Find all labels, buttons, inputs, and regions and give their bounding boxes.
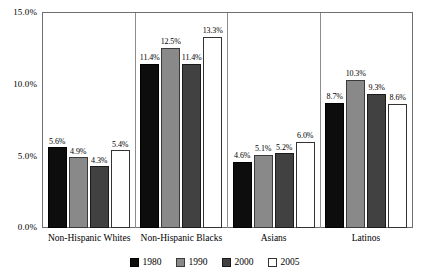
bar-value-label: 5.2% (276, 144, 292, 152)
bar-slot: 8.7% (325, 13, 344, 228)
bar-value-label: 8.6% (390, 94, 406, 102)
bar-2000[interactable] (182, 64, 201, 228)
bar-slot: 4.9% (69, 13, 88, 228)
bar-value-label: 5.1% (255, 145, 271, 153)
bar-2000[interactable] (90, 166, 109, 228)
bar-2005[interactable] (388, 104, 407, 228)
chart-legend: 1980 1990 2000 2005 (0, 255, 429, 269)
bar-2005[interactable] (111, 150, 130, 228)
bar-slot: 5.4% (111, 13, 130, 228)
category-label-latinos: Latinos (320, 232, 412, 246)
bar-value-label: 5.6% (49, 138, 65, 146)
bar-value-label: 11.4% (140, 54, 160, 62)
y-tick-label: 10.0% (13, 80, 37, 89)
legend-swatch-icon (222, 258, 231, 267)
legend-label: 1990 (189, 257, 208, 267)
category-label-asians: Asians (228, 232, 320, 246)
bar-value-label: 12.5% (161, 38, 181, 46)
bar-2000[interactable] (275, 153, 294, 228)
y-tick-label: 15.0% (13, 8, 37, 17)
bar-group-non-hispanic-blacks: 11.4% 12.5% 11.4% 13.3% (135, 13, 228, 228)
bar-value-label: 4.9% (70, 148, 86, 156)
legend-swatch-icon (130, 258, 139, 267)
bar-slot: 11.4% (182, 13, 201, 228)
bar-slot: 12.5% (161, 13, 180, 228)
bar-value-label: 9.3% (369, 84, 385, 92)
bar-slot: 5.2% (275, 13, 294, 228)
bar-group-non-hispanic-whites: 5.6% 4.9% 4.3% 5.4% (43, 13, 135, 228)
x-axis-category-labels: Non-Hispanic Whites Non-Hispanic Blacks … (43, 232, 412, 246)
bar-1980[interactable] (233, 162, 252, 228)
legend-label: 1980 (143, 257, 162, 267)
bar-group-latinos: 8.7% 10.3% 9.3% 8.6% (320, 13, 413, 228)
bar-1990[interactable] (69, 157, 88, 228)
bar-slot: 11.4% (140, 13, 159, 228)
bar-chart: 15.0% 10.0% 5.0% 0.0% 5.6% 4.9% 4.3% 5.4… (0, 0, 429, 276)
bar-value-label: 6.0% (297, 132, 313, 140)
bar-value-label: 4.3% (91, 157, 107, 165)
category-label-non-hispanic-blacks: Non-Hispanic Blacks (135, 232, 227, 246)
bar-value-label: 13.3% (203, 27, 223, 35)
y-axis: 15.0% 10.0% 5.0% 0.0% (0, 12, 40, 229)
bar-slot: 9.3% (367, 13, 386, 228)
bar-value-label: 4.6% (234, 152, 250, 160)
bar-1980[interactable] (140, 64, 159, 228)
bar-value-label: 8.7% (327, 93, 343, 101)
bar-1990[interactable] (346, 80, 365, 228)
y-tick-label: 0.0% (18, 223, 37, 232)
bar-value-label: 5.4% (112, 141, 128, 149)
bar-slot: 4.6% (233, 13, 252, 228)
legend-swatch-icon (268, 258, 277, 267)
bar-slot: 13.3% (203, 13, 222, 228)
bar-slot: 5.1% (254, 13, 273, 228)
legend-label: 2000 (235, 257, 254, 267)
bar-value-label: 11.4% (182, 54, 202, 62)
bar-slot: 5.6% (48, 13, 67, 228)
legend-label: 2005 (281, 257, 300, 267)
bar-1980[interactable] (48, 147, 67, 228)
legend-item-2005[interactable]: 2005 (268, 257, 300, 267)
bar-value-label: 10.3% (346, 70, 366, 78)
bar-groups: 5.6% 4.9% 4.3% 5.4% 11.4% 12.5% (43, 13, 412, 228)
bar-2000[interactable] (367, 94, 386, 228)
y-tick-label: 5.0% (18, 152, 37, 161)
bar-2005[interactable] (203, 37, 222, 229)
bar-1980[interactable] (325, 103, 344, 228)
bar-slot: 6.0% (296, 13, 315, 228)
legend-item-1990[interactable]: 1990 (176, 257, 208, 267)
bar-group-asians: 4.6% 5.1% 5.2% 6.0% (227, 13, 320, 228)
bar-2005[interactable] (296, 142, 315, 228)
bar-slot: 10.3% (346, 13, 365, 228)
legend-swatch-icon (176, 258, 185, 267)
category-label-non-hispanic-whites: Non-Hispanic Whites (43, 232, 135, 246)
legend-item-1980[interactable]: 1980 (130, 257, 162, 267)
bar-1990[interactable] (254, 155, 273, 228)
bar-slot: 8.6% (388, 13, 407, 228)
bar-slot: 4.3% (90, 13, 109, 228)
bar-1990[interactable] (161, 48, 180, 228)
legend-item-2000[interactable]: 2000 (222, 257, 254, 267)
